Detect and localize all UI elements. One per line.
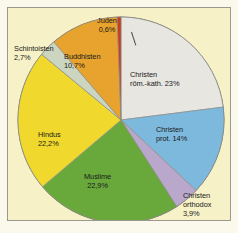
pie-label-christen-prot-value: prot. 14% (156, 134, 187, 143)
pie-label-schintoisten: Schintoisten 2,7% (14, 44, 54, 62)
pie-label-buddhisten-name: Buddhisten (64, 52, 100, 61)
chart-figure: Juden 0,6% Schintoisten 2,7% Buddhisten … (0, 0, 238, 233)
pie-label-buddhisten: Buddhisten 10,7% (64, 52, 100, 70)
pie-label-schintoisten-value: 2,7% (14, 53, 54, 62)
pie-chart-svg (8, 8, 231, 221)
pie-label-hindus-value: 22,2% (38, 139, 61, 148)
pie-label-juden: Juden 0,6% (81, 16, 133, 34)
pie-label-schintoisten-name: Schintoisten (14, 44, 54, 53)
pie-label-muslime: Muslime 22,9% (84, 172, 111, 190)
pie-label-christen-orthodox: Christen orthodox 3,9% (183, 191, 211, 218)
pie-label-juden-value: 0,6% (81, 25, 133, 34)
pie-label-christen-roem-kath-name: Christen (130, 70, 179, 79)
pie-label-christen-roem-kath-value: röm.-kath. 23% (130, 79, 179, 88)
pie-chart-plot-area: Juden 0,6% Schintoisten 2,7% Buddhisten … (7, 7, 231, 221)
pie-slice-christen-roem-kath[interactable] (121, 17, 223, 120)
pie-label-christen-orthodox-name: Christen (183, 191, 211, 200)
pie-label-juden-name: Juden (81, 16, 133, 25)
pie-label-hindus-name: Hindus (38, 130, 61, 139)
pie-label-christen-prot-name: Christen (156, 125, 187, 134)
pie-label-muslime-name: Muslime (84, 172, 111, 181)
pie-label-christen-roem-kath: Christen röm.-kath. 23% (130, 70, 179, 88)
pie-label-christen-prot: Christen prot. 14% (156, 125, 187, 143)
pie-label-christen-orthodox-name2: orthodox (183, 200, 211, 209)
pie-label-hindus: Hindus 22,2% (38, 130, 61, 148)
pie-label-christen-orthodox-value: 3,9% (183, 209, 211, 218)
pie-label-muslime-value: 22,9% (84, 181, 111, 190)
pie-label-buddhisten-value: 10,7% (64, 61, 100, 70)
